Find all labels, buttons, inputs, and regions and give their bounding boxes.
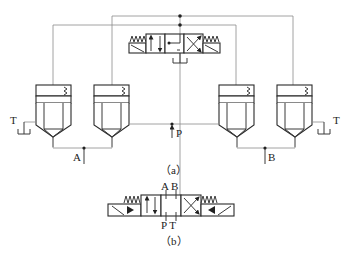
caption-a: （a） [160, 161, 187, 177]
port-label-b: B [268, 152, 275, 163]
pilot-directional-valve [129, 34, 220, 63]
port-label-t-left: T [10, 115, 17, 126]
cartridge-valve-3 [219, 85, 254, 147]
directional-valve-b [108, 190, 234, 221]
port-label-b-top: A B [161, 181, 178, 192]
port-label-p: P [176, 128, 182, 139]
caption-b: （b） [160, 232, 188, 248]
cartridge-valve-4 [277, 85, 312, 147]
port-label-a: A [73, 152, 81, 163]
cartridge-valve-2 [94, 85, 129, 147]
port-label-b-bottom: P T [161, 220, 176, 231]
cartridge-valve-1 [36, 85, 71, 147]
port-label-t-right: T [333, 115, 340, 126]
